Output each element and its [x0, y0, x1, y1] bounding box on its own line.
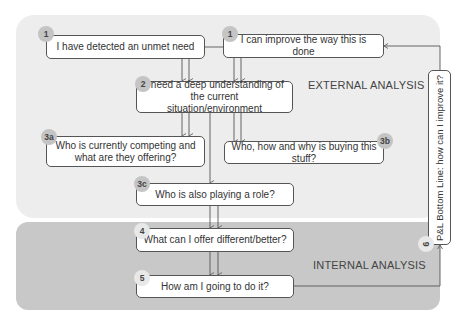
step-badge-6: 6 [418, 236, 434, 252]
step-badge-1b: 1 [222, 26, 238, 42]
step-3a-competition-box: Who is currently competing and what are … [46, 136, 205, 167]
step-badge-2: 2 [135, 76, 151, 92]
step-3c-roles-box: Who is also playing a role? [136, 183, 294, 206]
step-badge-3a: 3a [41, 129, 57, 145]
step-badge-3c: 3c [134, 176, 150, 192]
step-text: P&L Bottom Line: how can I improve it? [434, 75, 446, 241]
internal-analysis-label: INTERNAL ANALYSIS [313, 259, 426, 271]
step-badge-3b: 3b [377, 133, 393, 149]
step-text: I need a deep understanding of the curre… [143, 79, 286, 115]
step-5-execution-box: How am I going to do it? [136, 275, 294, 298]
step-badge-1: 1 [38, 26, 54, 42]
step-2-understanding-box: I need a deep understanding of the curre… [136, 81, 293, 113]
step-badge-5: 5 [134, 270, 150, 286]
step-badge-4: 4 [134, 223, 150, 239]
external-analysis-label: EXTERNAL ANALYSIS [308, 79, 425, 91]
step-text: Who is currently competing and what are … [53, 140, 198, 164]
step-text: Who is also playing a role? [155, 189, 275, 201]
step-text: How am I going to do it? [161, 281, 269, 293]
step-text: I can improve the way this is done [230, 34, 377, 58]
step-1-improve-box: I can improve the way this is done [223, 34, 384, 58]
step-4-offer-box: What can I offer different/better? [136, 228, 294, 252]
step-6-pl-bottom-line-box: P&L Bottom Line: how can I improve it? [428, 70, 451, 245]
step-text: I have detected an unmet need [57, 41, 195, 53]
step-text: Who, how and why is buying this stuff? [231, 141, 377, 165]
step-1-unmet-need-box: I have detected an unmet need [46, 35, 205, 59]
step-3b-buyers-box: Who, how and why is buying this stuff? [224, 141, 384, 164]
step-text: What can I offer different/better? [143, 234, 286, 246]
